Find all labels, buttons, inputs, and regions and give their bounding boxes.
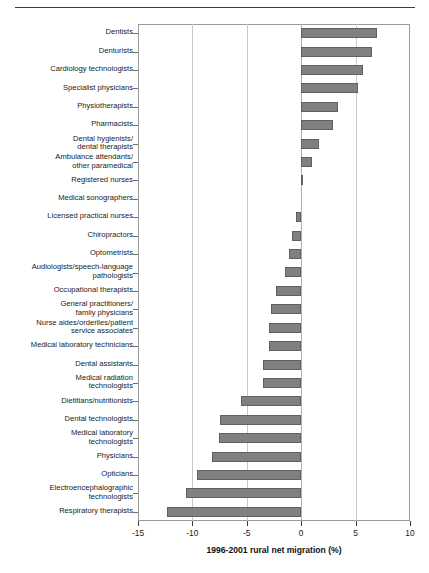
category-label: Registered nurses xyxy=(0,176,133,185)
bar-chart: DentistsDenturistsCardiology technologis… xyxy=(0,0,429,573)
category-label: Physiotherapists xyxy=(0,102,133,111)
bar xyxy=(269,341,302,351)
bar xyxy=(263,360,301,370)
bar xyxy=(241,396,301,406)
category-label: Dentists xyxy=(0,28,133,37)
category-label: Dental hygienists/ dental therapists xyxy=(0,135,133,152)
category-label: Occupational therapists xyxy=(0,286,133,295)
category-label: Ambulance attendants/ other paramedical xyxy=(0,153,133,170)
x-tick-label: -10 xyxy=(172,528,212,538)
bar xyxy=(271,304,301,314)
bar xyxy=(301,83,358,93)
category-label: Denturists xyxy=(0,47,133,56)
category-label: Dental assistants xyxy=(0,360,133,369)
bar xyxy=(292,231,301,241)
bar xyxy=(212,452,301,462)
bar xyxy=(186,488,301,498)
category-label: Cardiology technologists xyxy=(0,65,133,74)
bar xyxy=(220,415,302,425)
category-label: Medical laboratory technologists xyxy=(0,429,133,446)
bar xyxy=(219,433,302,443)
category-label: General practitioners/ family physicians xyxy=(0,300,133,317)
bar xyxy=(197,470,301,480)
bar xyxy=(301,157,312,167)
category-label: Electroencephalographic technologists xyxy=(0,484,133,501)
x-tick--10 xyxy=(192,521,193,526)
x-tick-10 xyxy=(410,521,411,526)
category-label: Medical radiation technologists xyxy=(0,374,133,391)
bar xyxy=(301,28,377,38)
category-label: Dietitians/nutritionists xyxy=(0,397,133,406)
bar xyxy=(301,65,363,75)
category-label: Respiratory therapists xyxy=(0,507,133,516)
x-axis-title: 1996-2001 rural net migration (%) xyxy=(138,545,410,555)
category-label: Audiologists/speech-language pathologist… xyxy=(0,263,133,280)
bar xyxy=(296,212,301,222)
category-label: Optometrists xyxy=(0,249,133,258)
category-label: Nurse aides/orderlies/patient service as… xyxy=(0,319,133,336)
bar xyxy=(289,249,301,259)
x-tick-label: 0 xyxy=(281,528,321,538)
x-tick--5 xyxy=(247,521,248,526)
bar xyxy=(276,286,301,296)
category-label: Dental technologists xyxy=(0,415,133,424)
x-tick-0 xyxy=(301,521,302,526)
x-tick-label: -15 xyxy=(118,528,158,538)
bar xyxy=(263,378,301,388)
bar xyxy=(167,507,301,517)
x-tick-5 xyxy=(356,521,357,526)
category-label: Medical laboratory technicians xyxy=(0,341,133,350)
bar xyxy=(301,120,333,130)
bar xyxy=(269,323,302,333)
bar xyxy=(285,267,301,277)
bar xyxy=(301,175,303,185)
bar xyxy=(301,139,318,149)
category-label: Medical sonographers xyxy=(0,194,133,203)
category-label: Specialist physicians xyxy=(0,84,133,93)
category-label: Chiropractors xyxy=(0,231,133,240)
x-tick--15 xyxy=(138,521,139,526)
x-tick-label: 5 xyxy=(336,528,376,538)
category-label: Physicians xyxy=(0,452,133,461)
bar xyxy=(301,47,372,57)
x-tick-label: -5 xyxy=(227,528,267,538)
bar xyxy=(301,102,338,112)
category-label: Opticians xyxy=(0,470,133,479)
x-tick-label: 10 xyxy=(390,528,429,538)
category-label: Pharmacists xyxy=(0,120,133,129)
category-label: Licensed practical nurses xyxy=(0,212,133,221)
